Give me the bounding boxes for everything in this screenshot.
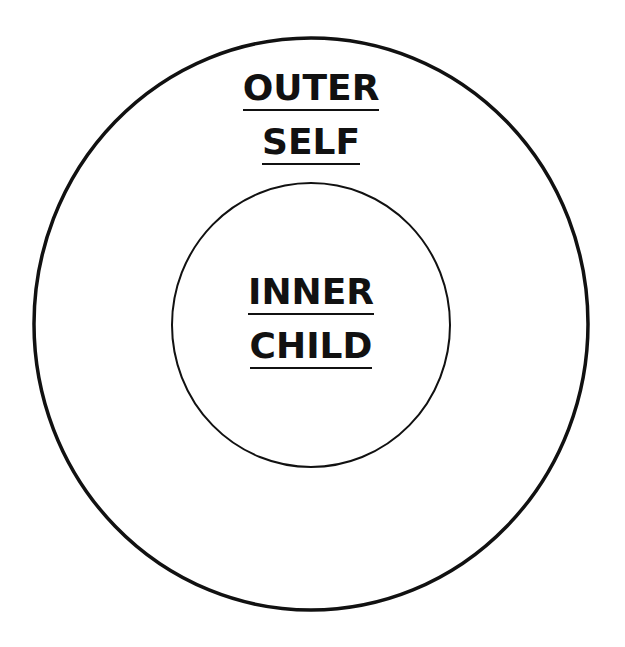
outer-label-text-2: SELF bbox=[262, 124, 360, 165]
inner-child-label-line2: CHILD bbox=[211, 328, 411, 369]
inner-label-text-1: INNER bbox=[248, 274, 374, 315]
inner-child-label-line1: INNER bbox=[211, 274, 411, 315]
inner-label-text-2: CHILD bbox=[250, 328, 373, 369]
outer-label-text-1: OUTER bbox=[243, 70, 380, 111]
outer-self-label-line2: SELF bbox=[211, 124, 411, 165]
outer-self-label-line1: OUTER bbox=[211, 70, 411, 111]
